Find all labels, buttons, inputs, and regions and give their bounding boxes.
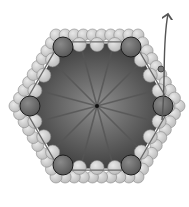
molecular-ring-diagram <box>0 0 189 207</box>
vertex-sphere <box>53 37 73 57</box>
inner-sphere <box>72 160 86 174</box>
vertex-sphere <box>121 155 141 175</box>
center-point <box>95 104 99 108</box>
ring-diagram-svg <box>0 0 189 207</box>
vertex-sphere <box>20 96 40 116</box>
inner-sphere <box>90 160 104 174</box>
vertex-sphere <box>121 37 141 57</box>
inner-sphere <box>108 38 122 52</box>
inner-sphere <box>108 160 122 174</box>
inner-sphere <box>72 38 86 52</box>
inner-sphere <box>90 38 104 52</box>
vertex-sphere <box>53 155 73 175</box>
exit-point-marker <box>158 66 164 72</box>
